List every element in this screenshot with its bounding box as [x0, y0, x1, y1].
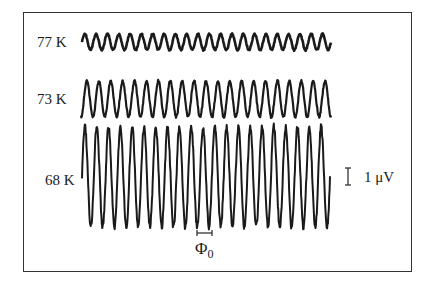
label-68K: 68 K — [45, 173, 75, 188]
label-73K: 73 K — [37, 92, 67, 107]
voltage-scale-bar — [345, 168, 351, 185]
voltage-scale-label: 1 μV — [364, 170, 394, 185]
label-77K: 77 K — [37, 35, 67, 50]
phi-subscript: 0 — [207, 247, 213, 261]
phi-symbol: Φ — [195, 239, 207, 258]
flux-scale-bar — [197, 230, 212, 236]
trace-68K — [82, 124, 330, 230]
figure: 77 K 73 K 68 K 1 μV Φ0 — [0, 0, 433, 289]
trace-73K — [81, 80, 331, 118]
trace-77K — [82, 33, 331, 51]
flux-quantum-label: Φ0 — [195, 241, 213, 262]
